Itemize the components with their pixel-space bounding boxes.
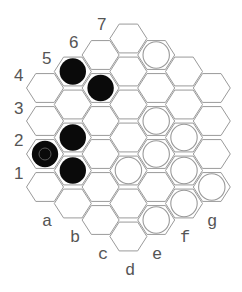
- white-stone-d3: [115, 157, 141, 183]
- white-stone-e7: [143, 42, 169, 68]
- white-stone-f3: [171, 190, 197, 216]
- white-stone-e5: [143, 108, 169, 134]
- black-stone-c5: [87, 75, 113, 101]
- black-stone-a2: [32, 141, 58, 167]
- game-board: 1 2 3 4 5 6 7 a b c d e f g: [0, 0, 242, 292]
- white-stone-e4: [143, 141, 169, 167]
- column-label-f: f: [180, 228, 190, 247]
- black-stone-b3: [60, 124, 86, 150]
- black-stone-b5: [60, 58, 86, 84]
- column-label-g: g: [207, 212, 217, 231]
- row-label-6: 6: [69, 33, 78, 52]
- row-label-2: 2: [14, 131, 23, 150]
- white-stone-e2: [143, 207, 169, 233]
- column-label-b: b: [70, 228, 80, 247]
- row-label-7: 7: [97, 15, 106, 34]
- board-cells: [27, 24, 231, 251]
- column-label-c: c: [98, 245, 108, 264]
- row-label-5: 5: [42, 49, 51, 68]
- white-stone-f4: [171, 157, 197, 183]
- column-label-d: d: [125, 261, 135, 280]
- row-label-1: 1: [14, 164, 23, 183]
- row-label-4: 4: [14, 66, 23, 85]
- column-label-a: a: [42, 212, 52, 231]
- black-stone-b2: [60, 157, 86, 183]
- row-label-3: 3: [14, 99, 23, 118]
- white-stone-g4: [199, 174, 225, 200]
- white-stone-f5: [171, 124, 197, 150]
- column-label-e: e: [152, 245, 162, 264]
